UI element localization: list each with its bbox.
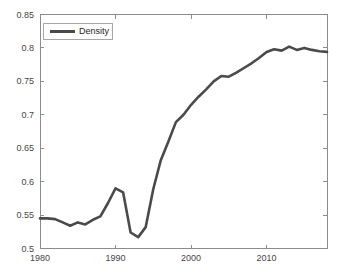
y-tick-label: 0.65 bbox=[16, 143, 34, 153]
x-tick-label: 1980 bbox=[30, 253, 50, 263]
y-tick-label: 0.75 bbox=[16, 76, 34, 86]
density-line-chart: 19801990200020100.50.550.60.650.70.750.8… bbox=[0, 0, 341, 279]
y-tick-label: 0.55 bbox=[16, 210, 34, 220]
x-tick-label: 1990 bbox=[106, 253, 126, 263]
legend-line-sample bbox=[50, 30, 75, 33]
legend: Density bbox=[43, 23, 113, 40]
y-tick-label: 0.6 bbox=[21, 177, 34, 187]
plot-area: 19801990200020100.50.550.60.650.70.750.8… bbox=[0, 0, 341, 279]
x-tick-label: 2010 bbox=[257, 253, 277, 263]
y-tick-label: 0.85 bbox=[16, 10, 34, 20]
y-tick-label: 0.5 bbox=[21, 244, 34, 254]
y-tick-label: 0.7 bbox=[21, 110, 34, 120]
series-line-density bbox=[40, 47, 327, 238]
legend-label: Density bbox=[79, 27, 109, 36]
y-tick-label: 0.8 bbox=[21, 43, 34, 53]
x-tick-label: 2000 bbox=[181, 253, 201, 263]
